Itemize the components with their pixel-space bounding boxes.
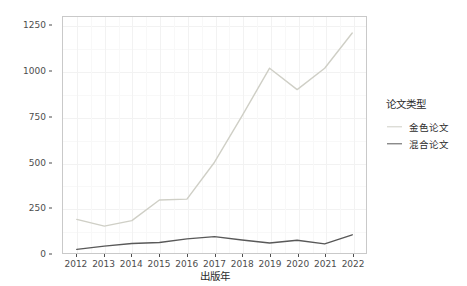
y-axis-tick-label: 750 (29, 112, 46, 122)
y-axis-tick-mark (49, 70, 52, 71)
y-axis-tick-label: 250 (29, 203, 46, 213)
x-axis-tick-mark (131, 254, 132, 257)
x-axis-tick-mark (215, 254, 216, 257)
legend-line-icon (386, 138, 403, 150)
y-axis-tick-mark (49, 254, 52, 255)
y-axis-tick-mark (49, 162, 52, 163)
legend-item-group: 金色论文混合论文 (386, 119, 464, 151)
y-axis-tick-label: 500 (29, 158, 46, 168)
legend-item-label: 金色论文 (409, 120, 449, 134)
series-line (77, 235, 352, 250)
y-axis-tick-label: 0 (40, 249, 46, 259)
x-axis-tick-mark (76, 254, 77, 257)
plot-panel (62, 16, 367, 254)
legend-line-icon (386, 121, 403, 133)
y-axis-tick-label: 1250 (23, 20, 46, 30)
x-axis-tick-mark (353, 254, 354, 257)
x-axis-tick-mark (159, 254, 160, 257)
legend-item-label: 混合论文 (409, 137, 449, 151)
x-axis-tick-mark (104, 254, 105, 257)
x-axis-tick-mark (187, 254, 188, 257)
x-axis-tick-mark (325, 254, 326, 257)
legend-item[interactable]: 混合论文 (386, 136, 464, 151)
y-axis-tick-mark (49, 25, 52, 26)
series-line (77, 33, 352, 226)
x-axis-title: 出版年 (62, 268, 367, 283)
y-axis-tick-label: 1000 (23, 66, 46, 76)
y-axis-tick-mark (49, 208, 52, 209)
legend-item[interactable]: 金色论文 (386, 119, 464, 134)
chart-figure: APC费用（万元） 125010007505002500 20122013201… (0, 0, 467, 286)
y-axis-tick-mark (49, 116, 52, 117)
x-axis-tick-mark (242, 254, 243, 257)
y-axis-tick-group: 125010007505002500 (22, 14, 52, 254)
x-axis-tick-mark (270, 254, 271, 257)
x-axis-tick-mark (298, 254, 299, 257)
legend: 论文类型 金色论文混合论文 (386, 96, 464, 153)
series-lines (63, 17, 366, 253)
legend-title: 论文类型 (386, 96, 464, 111)
